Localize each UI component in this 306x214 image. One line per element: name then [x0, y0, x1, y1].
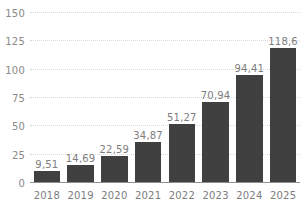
x-axis-labels: 2018 2019 2020 2021 2022 2023 2024 2025: [30, 188, 300, 204]
axis-baseline: 0: [30, 182, 300, 183]
plot-area: 150 125 100 75 50 25 0 9,51: [30, 12, 300, 182]
bar-slot-2022: 51,27: [165, 12, 199, 182]
x-label-2019: 2019: [64, 188, 98, 204]
bar-value-label-2023: 70,94: [201, 90, 231, 101]
bar-2018[interactable]: 9,51: [34, 171, 60, 182]
x-label-2023: 2023: [199, 188, 233, 204]
x-label-2025: 2025: [266, 188, 300, 204]
bar-value-label-2021: 34,87: [133, 130, 163, 141]
bar-2019[interactable]: 14,69: [67, 165, 93, 182]
y-tick-label-25: 25: [12, 149, 25, 160]
bar-2021[interactable]: 34,87: [135, 142, 161, 182]
bar-2022[interactable]: 51,27: [169, 124, 195, 182]
bar-slot-2018: 9,51: [30, 12, 64, 182]
bar-slot-2019: 14,69: [64, 12, 98, 182]
bar-value-label-2020: 22,59: [100, 144, 130, 155]
bar-value-label-2024: 94,41: [235, 63, 265, 74]
bar-value-label-2022: 51,27: [167, 112, 197, 123]
bar-2020[interactable]: 22,59: [101, 156, 127, 182]
bar-slot-2024: 94,41: [233, 12, 267, 182]
y-tick-label-0: 0: [18, 178, 25, 189]
y-tick-label-50: 50: [12, 121, 25, 132]
x-label-2022: 2022: [165, 188, 199, 204]
bar-series: 9,51 14,69 22,59 34,87 51,27: [30, 12, 300, 182]
x-label-2018: 2018: [30, 188, 64, 204]
bar-2025[interactable]: 118,6: [270, 48, 296, 182]
bar-slot-2021: 34,87: [131, 12, 165, 182]
bar-chart: 150 125 100 75 50 25 0 9,51: [0, 0, 306, 214]
bar-slot-2023: 70,94: [199, 12, 233, 182]
y-tick-label-100: 100: [5, 64, 25, 75]
x-label-2024: 2024: [233, 188, 267, 204]
y-tick-label-75: 75: [12, 93, 25, 104]
bar-value-label-2018: 9,51: [35, 159, 58, 170]
y-tick-label-125: 125: [5, 36, 25, 47]
bar-slot-2020: 22,59: [98, 12, 132, 182]
bar-slot-2025: 118,6: [266, 12, 300, 182]
bar-value-label-2019: 14,69: [66, 153, 96, 164]
x-label-2020: 2020: [98, 188, 132, 204]
bar-value-label-2025: 118,6: [268, 36, 298, 47]
y-tick-label-150: 150: [5, 8, 25, 19]
x-label-2021: 2021: [131, 188, 165, 204]
bar-2024[interactable]: 94,41: [236, 75, 262, 182]
bar-2023[interactable]: 70,94: [202, 102, 228, 182]
